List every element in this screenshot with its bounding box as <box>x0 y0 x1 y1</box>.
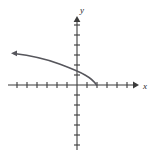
y-axis-label: y <box>79 5 84 15</box>
function-curve <box>14 54 97 86</box>
x-axis-label: x <box>142 81 147 91</box>
x-axis-arrow-icon <box>133 82 139 89</box>
y-axis-arrow-icon <box>74 16 81 22</box>
coordinate-plane-svg: y x <box>0 0 152 152</box>
graph-figure: y x <box>0 0 152 152</box>
curve-left-arrow-icon <box>11 51 17 57</box>
